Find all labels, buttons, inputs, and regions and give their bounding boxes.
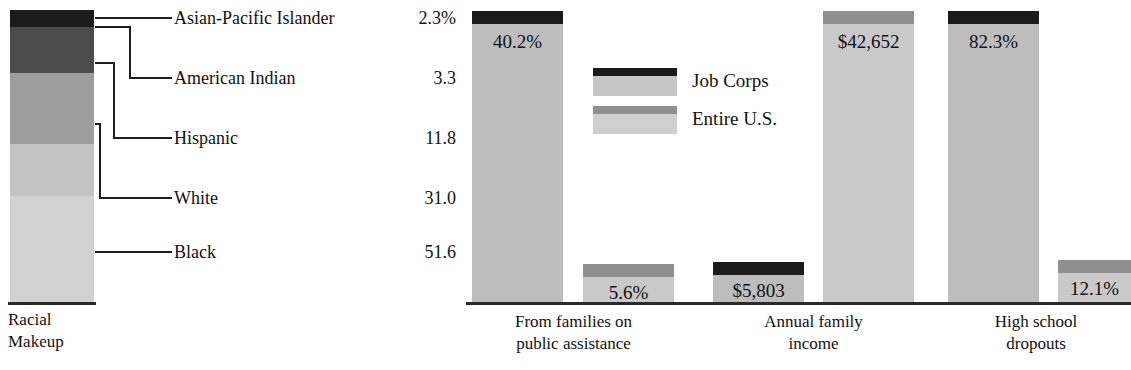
bar-value-entire-us-dropouts: 12.1% <box>1058 278 1131 300</box>
group-label-line2: income <box>706 333 921 355</box>
bar-body <box>472 24 563 303</box>
bar-job-corps-public-assistance: 40.2% <box>472 11 563 303</box>
bar-value-job-corps-public-assistance: 40.2% <box>472 31 563 53</box>
bar-cap <box>583 264 674 277</box>
legend-label-job-corps: Job Corps <box>692 70 769 92</box>
bar-cap <box>823 11 914 24</box>
bar-cap <box>472 11 563 24</box>
grouped-bar-baseline <box>466 302 1131 305</box>
figure-root: Racial Makeup Asian-Pacific Islander Ame… <box>0 0 1131 370</box>
group-label-line1: High school <box>941 311 1131 333</box>
bar-job-corps-dropouts: 82.3% <box>948 11 1039 303</box>
bar-body <box>823 24 914 303</box>
bar-entire-us-public-assistance: 5.6% <box>583 264 674 303</box>
legend-swatch-entire-us <box>593 106 677 134</box>
bar-value-entire-us-public-assistance: 5.6% <box>583 282 674 304</box>
legend-swatch-job-corps <box>593 68 677 96</box>
group-label-dropouts: High school dropouts <box>941 311 1131 355</box>
grouped-bar-chart: 40.2% 5.6% $5,803 $42,652 82.3% 12. <box>0 0 1131 370</box>
legend-swatch-cap <box>593 68 677 76</box>
group-label-annual-income: Annual family income <box>706 311 921 355</box>
legend-swatch-body <box>593 76 677 96</box>
legend-swatch-body <box>593 114 677 134</box>
bar-entire-us-dropouts: 12.1% <box>1058 260 1131 303</box>
legend-label-entire-us: Entire U.S. <box>692 108 777 130</box>
bar-job-corps-annual-income: $5,803 <box>713 262 804 303</box>
bar-cap <box>713 262 804 275</box>
group-label-line2: dropouts <box>941 333 1131 355</box>
bar-value-job-corps-dropouts: 82.3% <box>948 31 1039 53</box>
group-label-line1: From families on <box>466 311 681 333</box>
bar-cap <box>948 11 1039 24</box>
group-label-line2: public assistance <box>466 333 681 355</box>
group-label-public-assistance: From families on public assistance <box>466 311 681 355</box>
bar-entire-us-annual-income: $42,652 <box>823 11 914 303</box>
bar-body <box>948 24 1039 303</box>
group-label-line1: Annual family <box>706 311 921 333</box>
bar-value-entire-us-annual-income: $42,652 <box>823 31 914 53</box>
bar-cap <box>1058 260 1131 273</box>
legend-swatch-cap <box>593 106 677 114</box>
bar-value-job-corps-annual-income: $5,803 <box>713 280 804 302</box>
